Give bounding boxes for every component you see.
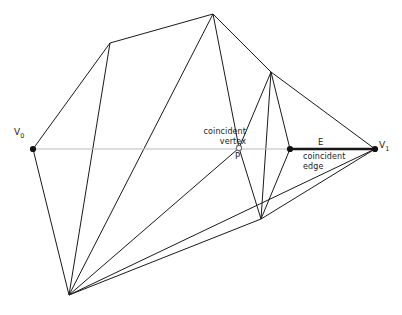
label-e: E — [318, 138, 323, 148]
label-coincident-edge: coincidentedge — [303, 152, 345, 171]
coincident-vertex-line1: coincident — [204, 127, 246, 136]
mesh-edge — [33, 149, 69, 295]
vertex-marker-p — [236, 145, 241, 150]
mesh-edge — [33, 43, 110, 149]
mesh-edge — [69, 148, 239, 295]
mesh-edge — [69, 14, 213, 295]
vertex-marker-v1 — [372, 146, 378, 152]
vertex-marker-v0 — [30, 146, 36, 152]
mesh-edge — [110, 14, 213, 43]
label-p: P — [235, 152, 240, 162]
mesh-diagram: V0 V1 coincidentvertex P E coincidentedg… — [0, 0, 402, 315]
label-coincident-vertex: coincidentvertex — [186, 127, 246, 146]
coincident-edge-line2: edge — [303, 162, 323, 171]
mesh-edge — [213, 14, 271, 72]
mesh-edge — [261, 72, 271, 219]
mesh-edge — [69, 219, 261, 295]
label-v1: V1 — [379, 141, 389, 154]
coincident-vertex-line2: vertex — [220, 137, 246, 146]
label-v0: V0 — [14, 128, 24, 141]
coincident-edge-line1: coincident — [303, 152, 345, 161]
vertex-marker-e-start — [287, 146, 293, 152]
mesh-edge — [69, 43, 110, 295]
label-v1-subscript: 1 — [385, 145, 389, 153]
label-v0-subscript: 0 — [20, 132, 24, 140]
